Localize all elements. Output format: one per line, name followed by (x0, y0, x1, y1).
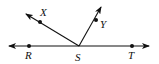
geometry-diagram: RTXYS (0, 0, 159, 64)
label-x: X (39, 6, 48, 18)
point-x (38, 20, 42, 24)
point-y (94, 18, 98, 22)
point-t (130, 44, 134, 48)
ray-SX (26, 14, 79, 46)
point-r (27, 44, 31, 48)
ray-SY (79, 7, 101, 46)
label-s: S (75, 51, 81, 63)
label-t: T (128, 49, 135, 61)
label-r: R (24, 49, 32, 61)
diagram-svg: RTXYS (0, 0, 159, 64)
label-y: Y (100, 18, 108, 30)
